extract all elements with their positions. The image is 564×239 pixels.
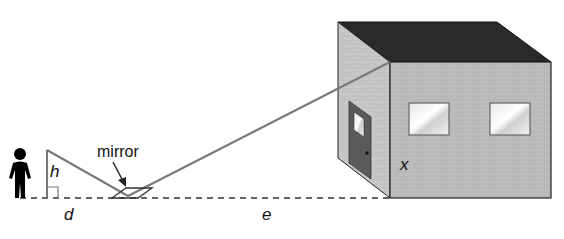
right-angle-mark (47, 187, 58, 198)
window-left (409, 103, 449, 135)
h-label: h (50, 162, 59, 182)
mirror-label: mirror (97, 143, 139, 161)
building (338, 22, 551, 198)
e-label: e (262, 205, 271, 225)
d-label: d (64, 205, 73, 225)
window-right (490, 103, 530, 135)
mirror-arrow-head (118, 177, 126, 187)
door-knob (365, 151, 369, 155)
diagram-canvas: mirror h d e x (0, 0, 564, 239)
person-icon (9, 148, 31, 198)
x-label: x (400, 155, 409, 175)
